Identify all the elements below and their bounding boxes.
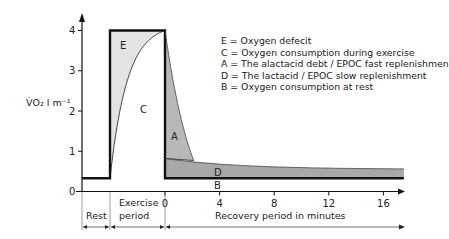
region-label-c: C	[140, 104, 147, 115]
legend-item-a: A = The alactacid debt / EPOC fast reple…	[221, 58, 449, 69]
y-ticks: 01234	[69, 25, 82, 197]
phase-label-exercise-line2: period	[119, 210, 149, 221]
phase-label-recovery: Recovery period in minutes	[215, 210, 346, 221]
y-tick-label: 4	[69, 25, 75, 36]
legend-item-c: C = Oxygen consumption during exercise	[221, 47, 415, 58]
y-axis-arrow	[79, 13, 85, 22]
region-label-d: D	[214, 167, 222, 178]
x-tick-label: 16	[377, 198, 390, 209]
legend: E = Oxygen defecit C = Oxygen consumptio…	[221, 35, 449, 92]
region-label-b: B	[214, 180, 221, 191]
x-tick-label: 8	[271, 198, 277, 209]
y-tick-label: 3	[69, 65, 75, 76]
region-label-a: A	[171, 131, 178, 142]
x-tick-label: 4	[216, 198, 222, 209]
epoc-chart: 01234 0481216 V̇O₂ l m⁻¹ E C A D B E = O…	[0, 0, 449, 239]
rest-arrow-left	[83, 225, 87, 229]
phase-label-exercise-line1: Exercise	[119, 197, 159, 208]
y-axis-label: V̇O₂ l m⁻¹	[26, 97, 71, 108]
phase-label-rest: Rest	[86, 210, 107, 221]
rest-arrow-right	[105, 225, 109, 229]
recovery-arrow-right	[399, 225, 405, 230]
legend-item-e: E = Oxygen defecit	[221, 35, 312, 46]
y-tick-label: 1	[69, 146, 75, 157]
x-axis-arrow	[398, 189, 405, 195]
exercise-arrow-left	[111, 225, 115, 229]
legend-item-d: D = The lactacid / EPOC slow replenishme…	[221, 70, 427, 81]
exercise-arrow-right	[160, 225, 164, 229]
x-ticks: 0481216	[162, 192, 390, 209]
region-a-fast-replenishment	[165, 31, 194, 161]
x-tick-label: 12	[322, 198, 335, 209]
y-tick-label: 0	[69, 186, 75, 197]
legend-item-b: B = Oxygen consumption at rest	[221, 81, 373, 92]
recovery-arrow-left	[166, 225, 170, 229]
region-label-e: E	[120, 40, 126, 51]
phase-annotations: Rest Exercise period Recovery period in …	[82, 192, 405, 230]
